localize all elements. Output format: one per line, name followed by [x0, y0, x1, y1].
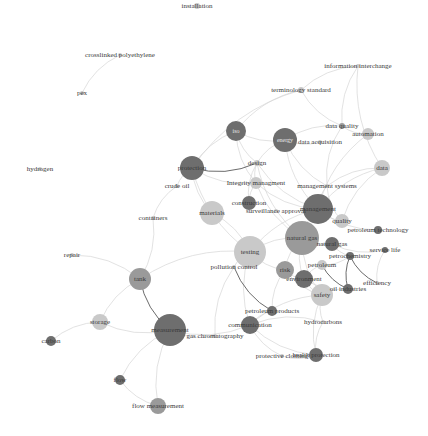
node-label: crude oil	[165, 183, 190, 190]
node-label: gas chromatography	[187, 333, 244, 340]
node-label: service life	[370, 247, 401, 254]
node-label: efficiency	[363, 280, 391, 287]
edge	[342, 168, 382, 221]
node-label: containers	[139, 215, 168, 222]
network-graph: installationcrosslinked polyethylenepexi…	[0, 0, 428, 436]
edge	[82, 55, 120, 93]
node-label: hydrocarbons	[304, 319, 342, 326]
node-label: health protection	[292, 352, 339, 359]
node-label: petroleum products	[245, 308, 299, 315]
node-label: petroleum	[308, 262, 336, 269]
edge	[326, 126, 342, 186]
node-label: surveillance approval	[246, 208, 306, 215]
node-label: pex	[77, 90, 87, 97]
node-label: natural gas	[317, 241, 348, 248]
edge	[342, 66, 358, 126]
node-label: pollution control	[211, 264, 258, 271]
node-label: protection	[178, 165, 206, 172]
node-label: petrochemistry	[329, 253, 371, 260]
node-label: automation	[352, 131, 384, 138]
node-label: natural gas	[287, 235, 318, 242]
node-label: safety	[314, 292, 331, 299]
node-label: flow	[114, 377, 127, 384]
node-label: information interchange	[324, 63, 391, 70]
node-label: hydrogen	[27, 166, 53, 173]
node-label: terminology standard	[271, 87, 331, 94]
node-label: installation	[181, 3, 212, 10]
node-label: measurement	[151, 327, 188, 334]
node-label: iso	[232, 128, 239, 134]
edge	[236, 90, 301, 131]
node-label: tank	[134, 276, 146, 283]
node-label: repair	[64, 252, 80, 259]
node-label: construction	[232, 200, 267, 207]
node-label: testing	[241, 249, 260, 256]
node-label: environment	[286, 276, 321, 283]
node-label: petroleum technology	[347, 227, 408, 234]
edge	[234, 267, 272, 311]
node-label: risk	[280, 267, 291, 274]
node-label: flow measurement	[132, 403, 184, 410]
node-label: storage	[90, 319, 110, 326]
node-label: design	[248, 160, 266, 167]
node-label: quality	[332, 218, 351, 225]
node-label: data acquisition	[298, 139, 342, 146]
node-label: data	[376, 165, 388, 172]
node-label: Integrity managment	[227, 180, 286, 187]
node-label: communication	[228, 322, 272, 329]
node-label: oil industries	[330, 286, 366, 293]
node-label: materials	[199, 210, 225, 217]
node-label: crosslinked polyethylene	[85, 52, 155, 59]
node-label: energy	[277, 137, 293, 143]
edge	[357, 66, 382, 168]
node-label: carbon	[41, 338, 60, 345]
node-label: data quality	[326, 123, 359, 130]
node-label: management	[300, 206, 336, 213]
node-label: management systems	[297, 183, 357, 190]
